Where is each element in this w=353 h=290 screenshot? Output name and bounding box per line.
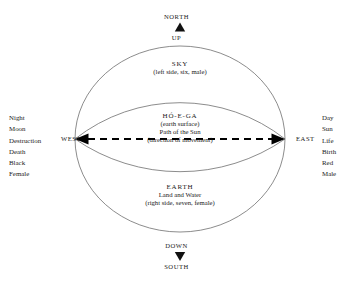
east-association-item: Life <box>322 135 336 146</box>
earth-surface-band-label: HÓ-E-GA (earth surface) Path of the Sun … <box>147 112 212 144</box>
east-association-item: Day <box>322 112 336 123</box>
west-association-item: Destruction <box>9 135 41 146</box>
sky-zone-label: SKY (left side, six, male) <box>153 60 206 76</box>
sky-title: SKY <box>153 60 206 68</box>
east-association-item: Male <box>322 168 336 179</box>
east-association-item: Red <box>322 157 336 168</box>
west-association-item: Night <box>9 112 41 123</box>
up-triangle-icon <box>175 23 185 32</box>
east-label: EAST <box>296 135 315 143</box>
band-path-of-sun: Path of the Sun <box>147 128 212 136</box>
west-association-item: Death <box>9 146 41 157</box>
east-associations-list: Day Sun Life Birth Red Male <box>322 112 336 180</box>
sky-attributes: (left side, six, male) <box>153 68 206 76</box>
west-associations-list: Night Moon Destruction Death Black Femal… <box>9 112 41 180</box>
east-association-item: Sun <box>322 123 336 134</box>
earth-title: EARTH <box>145 183 215 191</box>
band-movement-direction: (direction of movement) <box>147 136 212 144</box>
west-association-item: Female <box>9 168 41 179</box>
north-label: NORTH <box>164 13 189 21</box>
down-triangle-icon <box>175 252 185 261</box>
earth-zone-label: EARTH Land and Water (right side, seven,… <box>145 183 215 207</box>
down-label: DOWN <box>165 242 188 250</box>
band-title: HÓ-E-GA <box>147 112 212 120</box>
west-association-item: Black <box>9 157 41 168</box>
west-association-item: Moon <box>9 123 41 134</box>
east-association-item: Birth <box>322 146 336 157</box>
cosmology-diagram: NORTH UP DOWN SOUTH WEST EAST Night Moon… <box>0 0 353 290</box>
earth-subtitle: Land and Water <box>145 191 215 199</box>
up-label: UP <box>172 34 182 42</box>
south-label: SOUTH <box>164 263 189 271</box>
west-label: WEST <box>61 135 81 143</box>
earth-attributes: (right side, seven, female) <box>145 199 215 207</box>
east-arrowhead <box>272 134 286 145</box>
band-gloss: (earth surface) <box>147 120 212 128</box>
